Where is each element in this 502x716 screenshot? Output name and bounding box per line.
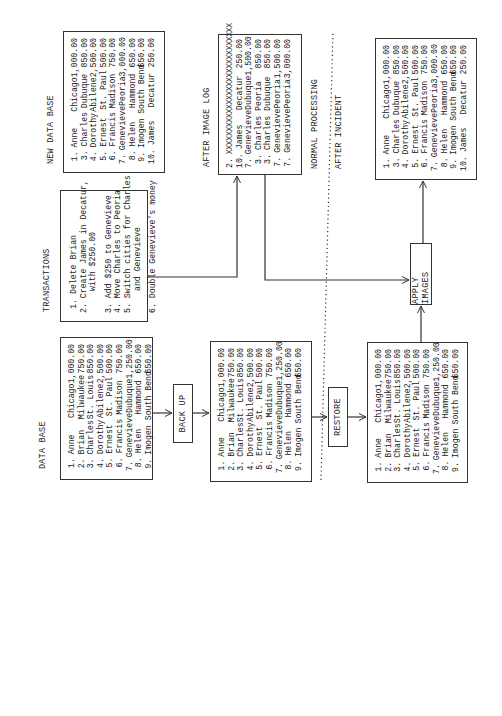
record-city: Madison (265, 381, 275, 417)
table-row: 3.CharlesSt. Louis850.00 (236, 348, 246, 473)
after-image-log-box: 2.XXXXXXXXXXXXXXXXXXXXXXXXXXXXX10.JamesD… (218, 34, 302, 175)
record-city: Abilene (96, 383, 106, 418)
record-name: Anne (382, 119, 392, 155)
record-city: Peoria (254, 73, 264, 111)
record-number: 2. (384, 458, 394, 474)
log-entry: 3.CharlesPeoria850.00 (254, 39, 264, 168)
record-name: Brian (384, 423, 394, 457)
record-city: Abilene (401, 84, 411, 118)
record-number: 7. (283, 153, 293, 168)
record-number: 4. (401, 154, 411, 171)
record-amount: 650.00 (294, 348, 304, 377)
record-city: South Bend (144, 374, 154, 420)
after-image-log-label: AFTER IMAGE LOG (202, 87, 212, 167)
record-city: Milwaukee (77, 375, 87, 419)
record-number: 3. (392, 153, 402, 171)
record-amount: 2,500.00 (401, 45, 411, 84)
record-name: Imogen (449, 121, 459, 155)
table-row: 1.AnneChicago1,000.00 (374, 349, 384, 474)
record-amount: 650.00 (440, 45, 450, 78)
record-amount: 500.00 (105, 344, 115, 377)
record-number: 1. (217, 457, 227, 473)
record-amount: 2,500.00 (89, 38, 99, 77)
record-amount: 650.00 (284, 348, 294, 381)
recovery-diagram: DATA BASE TRANSACTIONS NEW DATA BASE AFT… (0, 0, 502, 716)
table-row: 3.CharlesDubuque850.00 (392, 45, 402, 171)
record-amount: 1,000.00 (382, 45, 392, 84)
table-row: 5.ErnestSt. Paul500.00 (411, 45, 421, 171)
data-base-box: 1.AnneChicago1,000.002.BrianMilwaukee750… (60, 337, 153, 480)
record-city: Peoria (283, 78, 293, 108)
record-name: Charles (236, 422, 246, 456)
record-amount: 250.00 (147, 38, 157, 71)
record-amount: 3,000.00 (283, 39, 293, 78)
record-number: 3. (393, 458, 403, 474)
record-city: Decatur (459, 78, 469, 114)
record-name: Helen (134, 415, 144, 454)
record-name: Francis (115, 415, 125, 454)
record-amount: 1,000.00 (70, 38, 80, 77)
record-name: Genevieve (275, 415, 285, 459)
record-name: Charles (393, 423, 403, 457)
record-amount: 850.00 (86, 344, 96, 375)
record-amount: 650.00 (441, 349, 451, 382)
transaction-item: 6.Double Genevieve's money (148, 197, 158, 313)
transaction-number: 5. (123, 298, 133, 313)
table-row: 5.ErnestSt. Paul500.00 (105, 344, 115, 471)
record-name: Francis (108, 108, 118, 146)
transactions-box: 1.Delete Brian2.Create James in Decatur,… (60, 190, 148, 322)
record-number: 3. (254, 150, 264, 168)
record-number: 7. (275, 459, 285, 473)
table-row: 3.CharlesSt. Louis850.00 (86, 344, 96, 471)
new-data-base-box: 1.AnneChicago1,000.003.CharlesDubuque850… (63, 31, 165, 173)
record-number: 4. (246, 457, 256, 473)
record-amount: 500.00 (412, 349, 422, 381)
record-number: 6. (422, 457, 432, 474)
record-city: Abilene (89, 77, 99, 111)
record-amount: 500.00 (99, 38, 109, 70)
record-number: 3. (263, 150, 273, 168)
record-name: Helen (440, 115, 450, 153)
table-row: 4.DorothyAbilene2,500.00 (401, 45, 411, 171)
record-number: 8. (134, 453, 144, 471)
record-amount: 650.00 (128, 38, 138, 71)
record-amount: 750.00 (227, 348, 237, 378)
table-row: 10.JamesDecatur250.00 (147, 38, 157, 164)
transaction-text: Move Charles to Peoria (113, 190, 123, 298)
record-name: Charles (392, 115, 402, 153)
transaction-item: with $250.00 (88, 197, 98, 313)
table-row: 9.ImogenSouth Bend650.00 (449, 45, 459, 171)
record-city: Chicago (217, 387, 227, 421)
restored-data-base-box: 1.AnneChicago1,000.002.BrianMilwaukee750… (367, 342, 468, 483)
record-name: Imogen (137, 114, 147, 148)
record-number: 3. (80, 146, 90, 164)
record-city: Hammond (440, 78, 450, 115)
record-name: Charles (263, 111, 273, 150)
record-amount: 850.00 (254, 39, 264, 73)
record-amount: 3,000.00 (118, 37, 128, 76)
record-amount: 2,500.00 (246, 348, 256, 387)
transaction-number: 3. (104, 298, 114, 313)
record-city: Peoria (118, 76, 128, 105)
record-number: 2. (225, 154, 235, 168)
record-number: 8. (284, 456, 294, 473)
record-number: 1. (67, 454, 77, 471)
record-name: Ernest (99, 110, 109, 147)
transaction-text: Double Genevieve's money (148, 180, 158, 298)
log-entry: 7.GenevievePeoria1,500.00 (273, 39, 283, 168)
record-amount: 2,500.00 (403, 349, 413, 388)
record-name: Dorothy (246, 422, 256, 457)
transaction-item: 4.Move Charles to Peoria (113, 197, 123, 313)
record-city: Peoria (430, 83, 440, 112)
record-city: Madison (115, 378, 125, 415)
record-name: Ernest (412, 420, 422, 457)
transaction-number: 1. (69, 294, 79, 313)
record-name: Genevieve (273, 109, 283, 153)
record-number: 5. (411, 154, 421, 171)
record-name: Genevieve (432, 416, 442, 460)
record-name: Francis (265, 418, 275, 456)
transaction-text: Create James in Decatur, (79, 180, 89, 298)
record-amount: 750.00 (108, 38, 118, 71)
new-data-base-label: NEW DATA BASE (46, 95, 56, 164)
record-name: Dorothy (96, 418, 106, 454)
